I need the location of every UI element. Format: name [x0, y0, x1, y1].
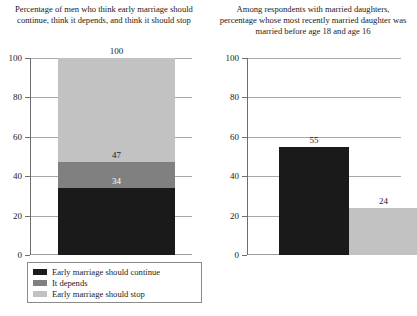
bar-segment-should-continue[interactable]: [58, 188, 175, 255]
y-tick-60: [25, 137, 30, 138]
legend-label-should-stop: Early marriage should stop: [52, 289, 145, 299]
left-chart-title: Percentage of men who think early marria…: [8, 4, 200, 26]
y-tick-label-60: 60: [230, 132, 239, 141]
bar-value-label-24: 24: [349, 196, 417, 206]
y-tick-label-60: 60: [13, 132, 22, 141]
legend-label-it-depends: It depends: [52, 278, 88, 288]
left-plot-area: 100 80 60 40 20 0 47 34 100: [30, 58, 192, 255]
y-tick-100: [25, 58, 30, 59]
legend-label-should-continue: Early marriage should continue: [52, 267, 160, 277]
y-tick-label-20: 20: [13, 211, 22, 220]
y-tick-60: [242, 137, 247, 138]
left-chart-panel: Percentage of men who think early marria…: [0, 0, 208, 316]
y-axis-line: [30, 58, 31, 255]
legend-swatch-icon-should-continue: [33, 269, 47, 275]
bar-total-label: 100: [58, 46, 175, 56]
y-tick-label-20: 20: [230, 211, 239, 220]
y-tick-20: [25, 216, 30, 217]
right-chart-title: Among respondents with married daughters…: [217, 4, 409, 38]
stacked-bar[interactable]: 47 34 100: [58, 58, 175, 255]
gridline-100: [247, 58, 401, 59]
y-axis-line: [247, 58, 248, 255]
left-chart-legend: Early marriage should continue It depend…: [27, 262, 202, 303]
y-tick-label-100: 100: [9, 54, 23, 63]
y-tick-label-40: 40: [230, 172, 239, 181]
y-tick-100: [242, 58, 247, 59]
legend-item-should-continue[interactable]: Early marriage should continue: [33, 266, 195, 277]
y-tick-label-80: 80: [13, 93, 22, 102]
y-tick-label-40: 40: [13, 172, 22, 181]
y-tick-80: [25, 97, 30, 98]
bar-value-label-55: 55: [279, 135, 349, 145]
bar-label-47: 47: [58, 150, 175, 160]
bar-married-before-16[interactable]: 24: [349, 208, 417, 255]
legend-swatch-icon-it-depends: [33, 280, 47, 286]
bar-married-before-18[interactable]: 55: [279, 147, 349, 255]
y-tick-80: [242, 97, 247, 98]
gridline-80: [247, 97, 401, 98]
y-tick-0: [25, 255, 30, 256]
bar-segment-should-stop[interactable]: [58, 58, 175, 162]
y-tick-label-80: 80: [230, 93, 239, 102]
y-tick-label-100: 100: [226, 54, 240, 63]
legend-item-should-stop[interactable]: Early marriage should stop: [33, 288, 195, 299]
legend-swatch-icon-should-stop: [33, 291, 47, 297]
y-tick-40: [242, 176, 247, 177]
legend-item-it-depends[interactable]: It depends: [33, 277, 195, 288]
bar-label-34: 34: [58, 176, 175, 186]
right-chart-panel: Among respondents with married daughters…: [209, 0, 417, 316]
y-tick-0: [242, 255, 247, 256]
chart-figure: Percentage of men who think early marria…: [0, 0, 417, 316]
right-plot-area: 100 80 60 40 20 0 55 24: [247, 58, 401, 255]
y-tick-label-0: 0: [235, 251, 240, 260]
y-tick-20: [242, 216, 247, 217]
y-tick-label-0: 0: [18, 251, 23, 260]
y-tick-40: [25, 176, 30, 177]
